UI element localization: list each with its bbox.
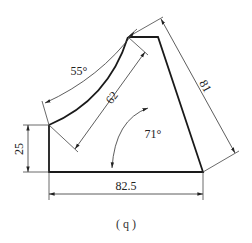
concave-arc-edge (49, 37, 128, 125)
dim-label-55-deg: 55° (71, 64, 88, 78)
part-outline (49, 37, 203, 172)
figure-caption: ( q ) (116, 217, 136, 231)
dim-label-82-5: 82.5 (116, 179, 137, 193)
technical-drawing: 25 82.5 81 62 55° 71° ( q ) (0, 0, 252, 243)
dimension-lines (28, 19, 235, 194)
dim-label-71-deg: 71° (145, 127, 162, 141)
dim-arc-71 (112, 108, 148, 168)
dim-arc-55 (45, 32, 134, 103)
dim-label-81: 81 (196, 77, 214, 94)
dim-label-62: 62 (103, 89, 121, 107)
dim-label-25: 25 (12, 143, 26, 155)
